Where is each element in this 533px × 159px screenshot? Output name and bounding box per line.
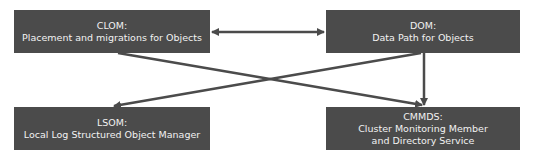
node-lsom-title: LSOM:	[97, 117, 127, 129]
node-dom-desc: Data Path for Objects	[372, 32, 474, 44]
architecture-diagram: CLOM: Placement and migrations for Objec…	[0, 0, 533, 159]
arrow-dom-lsom	[114, 53, 421, 106]
node-lsom: LSOM: Local Log Structured Object Manage…	[14, 107, 210, 150]
node-cmmds: CMMDS: Cluster Monitoring Member and Dir…	[326, 107, 520, 150]
node-lsom-desc: Local Log Structured Object Manager	[24, 129, 200, 141]
node-dom: DOM: Data Path for Objects	[326, 10, 520, 53]
node-cmmds-title: CMMDS:	[403, 111, 443, 123]
node-clom-title: CLOM:	[97, 20, 127, 32]
node-cmmds-desc-line1: Cluster Monitoring Member	[358, 123, 488, 135]
node-cmmds-desc-line2: and Directory Service	[372, 135, 475, 147]
node-clom: CLOM: Placement and migrations for Objec…	[14, 10, 210, 53]
arrow-clom-cmmds	[118, 53, 422, 105]
node-clom-desc: Placement and migrations for Objects	[22, 32, 202, 44]
node-dom-title: DOM:	[410, 20, 436, 32]
